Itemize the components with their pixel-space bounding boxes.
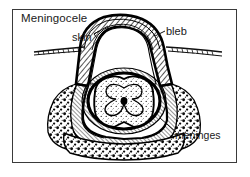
label-meningocele: Meningocele: [21, 12, 87, 24]
label-bleb: bleb: [166, 25, 187, 37]
figure-meningocele: Meningocele skin bleb meninges: [0, 0, 250, 177]
label-skin: skin: [72, 31, 92, 43]
label-meninges: meninges: [175, 129, 221, 141]
